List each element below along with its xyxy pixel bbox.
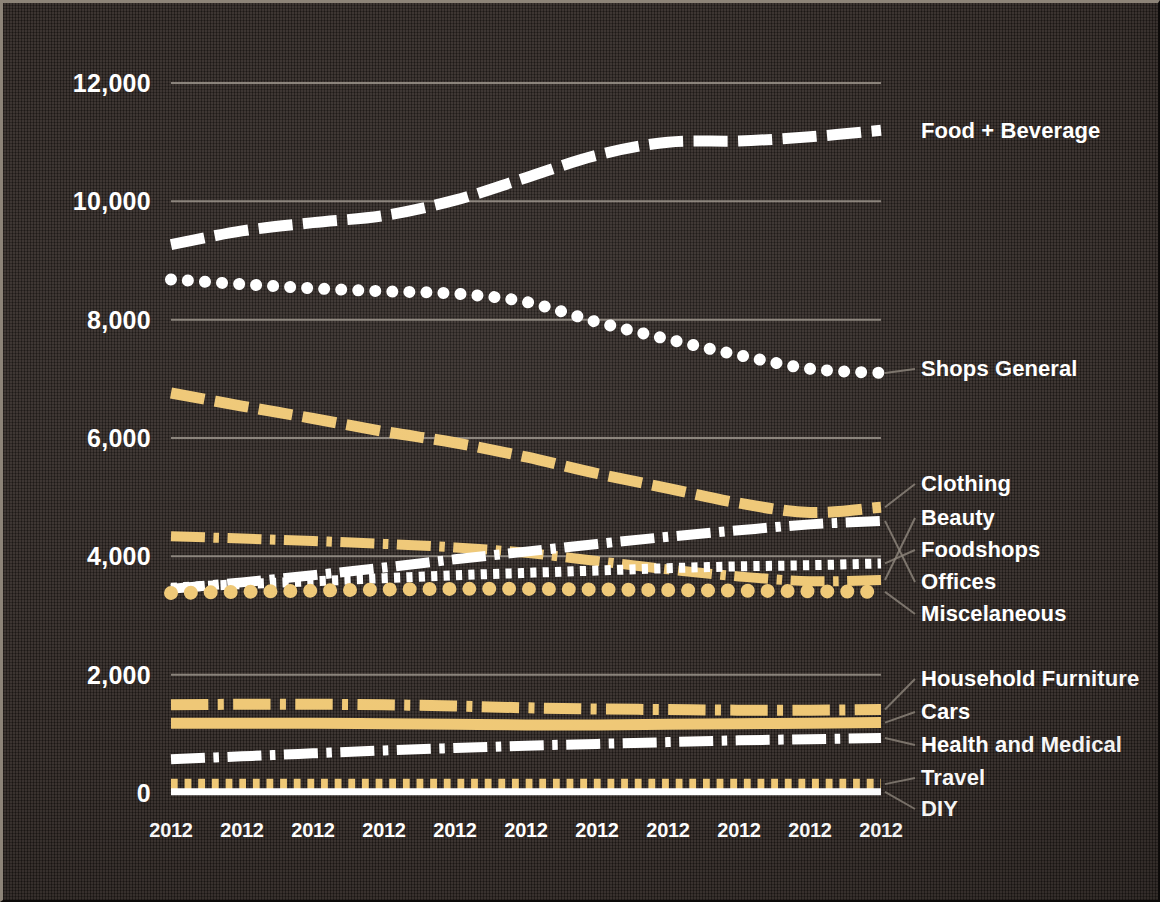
y-axis-tick-label: 6,000 (3, 424, 151, 453)
series-label-diy[interactable]: DIY (921, 796, 958, 822)
leader-line (885, 592, 915, 614)
y-axis-tick-label: 2,000 (3, 660, 151, 689)
series-label-foodshops[interactable]: Foodshops (921, 537, 1040, 563)
series-line-health-and-medical[interactable] (171, 738, 881, 759)
y-axis-tick-label: 4,000 (3, 542, 151, 571)
chart-canvas: 02,0004,0006,0008,00010,00012,000 201220… (0, 0, 1160, 902)
series-label-health-and-medical[interactable]: Health and Medical (921, 732, 1122, 758)
leader-line (885, 484, 915, 507)
x-axis-tick-label: 2012 (859, 819, 902, 842)
y-axis-tick-label: 8,000 (3, 305, 151, 334)
series-label-clothing[interactable]: Clothing (921, 471, 1011, 497)
x-axis-tick-label: 2012 (788, 819, 831, 842)
leader-lines (885, 369, 915, 809)
series-label-cars[interactable]: Cars (921, 699, 970, 725)
x-axis-tick-label: 2012 (504, 819, 547, 842)
x-axis-tick-label: 2012 (575, 819, 618, 842)
x-axis-tick-label: 2012 (220, 819, 263, 842)
series-label-offices[interactable]: Offices (921, 569, 996, 595)
x-axis-tick-label: 2012 (362, 819, 405, 842)
y-axis-tick-label: 10,000 (3, 187, 151, 216)
series-label-shops-general[interactable]: Shops General (921, 356, 1078, 382)
series-group (171, 130, 881, 791)
y-axis-tick-label: 12,000 (3, 69, 151, 98)
x-axis-tick-label: 2012 (433, 819, 476, 842)
leader-line (885, 738, 915, 745)
leader-line (885, 712, 915, 723)
x-axis-tick-label: 2012 (717, 819, 760, 842)
series-label-household-furniture[interactable]: Household Furniture (921, 666, 1139, 692)
series-label-miscelaneous[interactable]: Miscelaneous (921, 601, 1066, 627)
series-line-clothing[interactable] (171, 393, 881, 513)
series-line-household-furniture[interactable] (171, 704, 881, 710)
leader-line (885, 679, 915, 710)
leader-line (885, 778, 915, 784)
gridlines (171, 83, 881, 793)
series-line-cars[interactable] (171, 723, 881, 725)
series-label-beauty[interactable]: Beauty (921, 505, 995, 531)
x-axis-tick-label: 2012 (646, 819, 689, 842)
series-line-miscelaneous[interactable] (171, 589, 881, 593)
series-line-shops-general[interactable] (171, 279, 881, 372)
x-axis-tick-label: 2012 (291, 819, 334, 842)
series-line-food-beverage[interactable] (171, 130, 881, 244)
leader-line (885, 792, 915, 809)
series-label-travel[interactable]: Travel (921, 765, 985, 791)
leader-line (885, 369, 915, 373)
y-axis-tick-label: 0 (3, 779, 151, 808)
series-line-offices[interactable] (171, 521, 881, 589)
series-label-food-beverage[interactable]: Food + Beverage (921, 118, 1100, 144)
series-line-beauty[interactable] (171, 536, 881, 581)
x-axis-tick-label: 2012 (149, 819, 192, 842)
